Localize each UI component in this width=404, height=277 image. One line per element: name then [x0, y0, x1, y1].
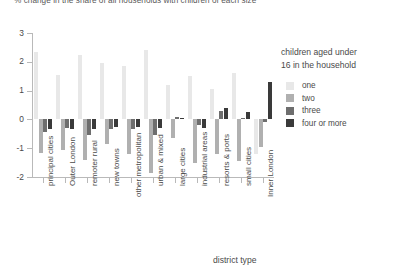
bar: [61, 119, 65, 149]
x-axis-label: industrial areas: [200, 132, 209, 186]
bar: [210, 89, 214, 119]
legend-item: four or more: [281, 118, 401, 129]
x-axis-title: district type: [213, 255, 256, 265]
legend-label: three: [302, 106, 321, 115]
bar: [263, 119, 267, 122]
bar: [180, 118, 184, 119]
x-axis-label: resorts & ports: [222, 134, 231, 186]
bar: [122, 66, 126, 119]
bar: [131, 119, 135, 129]
legend-title-line-2: 16 in the household: [281, 59, 401, 72]
x-axis-tick: [153, 178, 154, 183]
y-axis-tick: 2: [27, 62, 32, 63]
bar: [39, 119, 43, 152]
bar-chart: % change in the share of all households …: [0, 0, 404, 277]
bar: [158, 119, 162, 128]
bar: [153, 119, 157, 135]
bar: [114, 119, 118, 126]
x-axis-label: Inner London: [266, 150, 275, 197]
legend-item: one: [281, 80, 401, 91]
y-axis-tick: 0: [27, 119, 32, 120]
x-axis-tick: [65, 178, 66, 183]
legend-item: two: [281, 93, 401, 104]
bar: [237, 119, 241, 161]
y-axis-tick-label: -2: [17, 172, 24, 182]
bar: [144, 50, 148, 119]
bar: [259, 119, 263, 146]
legend-items: onetwothreefour or more: [281, 80, 401, 129]
x-axis-tick: [109, 178, 110, 183]
bar: [219, 111, 223, 120]
y-axis-tick-label: 2: [19, 56, 24, 66]
x-axis-tick: [43, 178, 44, 183]
legend-swatch: [286, 119, 294, 127]
bar: [127, 119, 131, 154]
bar: [188, 76, 192, 119]
bar: [171, 119, 175, 138]
x-axis-tick: [87, 178, 88, 183]
y-axis-tick: 1: [27, 91, 32, 92]
bar: [105, 119, 109, 143]
y-axis-tick-label: 3: [19, 28, 24, 38]
x-axis-label: principal cities: [46, 136, 55, 186]
bar: [268, 82, 272, 119]
x-axis-label: new towns: [112, 148, 121, 186]
bar: [70, 119, 74, 129]
x-axis-label: large cities: [178, 148, 187, 186]
bar: [92, 119, 96, 129]
bar: [175, 117, 179, 120]
x-axis-label: other metropolitan: [134, 133, 143, 197]
legend-swatch: [286, 107, 294, 115]
x-axis-tick: [241, 178, 242, 183]
bar: [43, 119, 47, 132]
bar: [224, 108, 228, 120]
x-axis-tick: [131, 178, 132, 183]
chart-title: % change in the share of all households …: [14, 0, 256, 5]
x-axis-label: remoter rural: [90, 140, 99, 186]
bar: [136, 119, 140, 126]
bar: [34, 52, 38, 120]
bar: [56, 75, 60, 120]
y-axis-tick-label: 0: [19, 114, 24, 124]
bar: [166, 85, 170, 120]
y-axis-tick: -1: [27, 148, 32, 149]
x-axis-tick: [197, 178, 198, 183]
x-axis-tick: [219, 178, 220, 183]
bar: [149, 119, 153, 172]
legend-label: four or more: [302, 119, 347, 128]
x-axis-tick: [175, 178, 176, 183]
bar: [197, 119, 201, 125]
bar: [202, 119, 206, 128]
bar: [109, 119, 113, 129]
bar: [254, 119, 258, 154]
bar: [87, 119, 91, 135]
legend-title-line-1: children aged under: [281, 46, 401, 59]
legend-label: two: [302, 94, 315, 103]
y-axis-tick-label: 1: [19, 85, 24, 95]
x-axis-label: urban & mixed: [156, 134, 165, 186]
bar: [241, 118, 245, 119]
bar: [78, 55, 82, 120]
bar: [193, 119, 197, 162]
x-axis-label: small cities: [244, 147, 253, 186]
bar: [246, 112, 250, 119]
y-axis-tick-label: -1: [17, 143, 24, 153]
legend-swatch: [286, 94, 294, 102]
y-axis-tick: -2: [27, 177, 32, 178]
y-axis-tick: 3: [27, 33, 32, 34]
legend-label: one: [302, 81, 316, 90]
bar: [100, 63, 104, 119]
bar: [232, 73, 236, 119]
bar: [215, 119, 219, 154]
bar: [48, 119, 52, 129]
bar: [65, 119, 69, 128]
x-axis-label: Outer London: [68, 137, 77, 186]
bar: [83, 119, 87, 159]
legend-swatch: [286, 82, 294, 90]
x-axis-tick: [263, 178, 264, 183]
legend-item: three: [281, 105, 401, 116]
legend: children aged under 16 in the household …: [281, 46, 401, 130]
